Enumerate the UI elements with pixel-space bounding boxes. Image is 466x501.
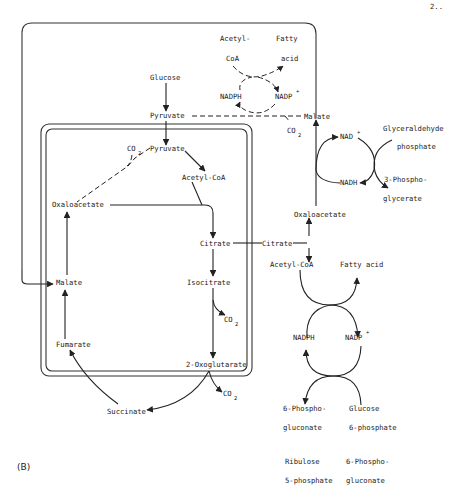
label-malate-cytosol: Malate — [304, 112, 330, 121]
label-pyruvate-cytosol: Pyruvate — [150, 111, 185, 120]
label-fatty-acid-top-2: acid — [281, 54, 298, 63]
label-glucose-6-phosphate-1: Glucose — [349, 404, 379, 413]
label-3-phosphoglycerate-2: glycerate — [383, 194, 422, 203]
mitochondrion-inner-membrane — [46, 129, 247, 371]
svg-text:CO: CO — [224, 315, 233, 324]
label-glyceraldehyde-2: phosphate — [397, 142, 436, 151]
panel-label: (B) — [17, 462, 30, 472]
svg-text:CO: CO — [223, 389, 232, 398]
label-6-phosphogluconate-1: 6-Phospho- — [283, 404, 326, 413]
label-glyceraldehyde-1: Glyceraldehyde — [383, 124, 444, 133]
label-oxaloacetate-mito: Oxaloacetate — [52, 200, 104, 209]
label-isocitrate: Isocitrate — [187, 278, 230, 287]
label-citrate-cytosol: Citrate — [262, 239, 292, 248]
label-pyruvate-mito: Pyruvate — [150, 144, 185, 153]
label-nadp-low: NADP — [345, 333, 362, 342]
label-nadh: NADH — [340, 178, 357, 187]
svg-text:+: + — [296, 88, 300, 94]
label-succinate: Succinate — [107, 407, 146, 416]
label-nadph-top: NADPH — [220, 92, 242, 101]
label-ribulose-1: Ribulose — [285, 457, 320, 466]
label-nadp-top: NADP — [275, 92, 292, 101]
svg-text:2: 2 — [234, 395, 237, 401]
label-acetyl-coa-top-2: CoA — [226, 54, 240, 63]
svg-text:CO: CO — [127, 144, 136, 153]
label-oxaloacetate-cytosol: Oxaloacetate — [294, 210, 346, 219]
svg-text:2: 2 — [298, 132, 301, 138]
label-acetyl-coa-cytosol: Acetyl-CoA — [270, 260, 314, 269]
mitochondrion-outer-membrane — [41, 124, 252, 376]
label-6-phosphogluconate-2: gluconate — [283, 423, 322, 432]
label-fumarate: Fumarate — [56, 340, 91, 349]
label-acetyl-coa-mito: Acetyl-CoA — [182, 173, 226, 182]
label-fatty-acid-top-1: Fatty — [276, 34, 298, 43]
metabolic-pathway-diagram: 2.. Acetyl- CoA Fatty acid NADPH NADP + … — [0, 0, 466, 501]
malate-export-arrow — [22, 270, 53, 284]
label-fatty-acid-cytosol: Fatty acid — [340, 260, 383, 269]
label-acetyl-coa-top-1: Acetyl- — [220, 34, 250, 43]
label-2-oxoglutarate: 2-Oxoglutarate — [186, 360, 247, 369]
label-ribulose-2: 5-phosphate — [285, 476, 333, 485]
label-3-phosphoglycerate-1: 3-Phospho- — [384, 175, 427, 184]
label-nad-plus: NAD — [340, 132, 353, 141]
label-malate-mito: Malate — [56, 278, 82, 287]
svg-text:+: + — [366, 329, 370, 335]
label-glucose: Glucose — [150, 73, 180, 82]
label-6-phosphogluconate-b2: gluconate — [346, 476, 385, 485]
svg-text:2: 2 — [235, 321, 238, 327]
label-6-phosphogluconate-b1: 6-Phospho- — [346, 457, 389, 466]
svg-text:+: + — [357, 129, 361, 135]
label-glucose-6-phosphate-2: 6-phosphate — [349, 423, 397, 432]
label-citrate-mito: Citrate — [200, 239, 230, 248]
label-nadph-low: NADPH — [293, 333, 315, 342]
svg-text:CO: CO — [287, 126, 296, 135]
page-number: 2.. — [430, 2, 443, 11]
